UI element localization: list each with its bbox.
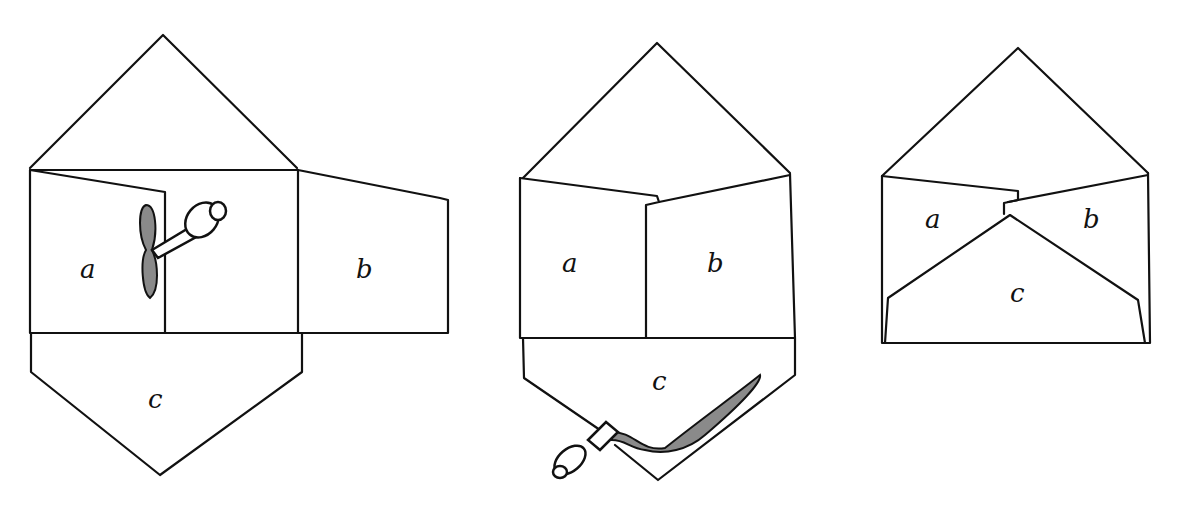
top-flap	[523, 43, 790, 178]
flap-b-folded	[1008, 175, 1148, 202]
label-b: b	[1083, 204, 1100, 234]
glue-tube-icon	[140, 196, 226, 298]
step-3-figure: a b c	[882, 48, 1150, 343]
label-a: a	[562, 248, 578, 278]
label-c: c	[652, 366, 667, 396]
label-c: c	[1010, 278, 1025, 308]
flap-c-left	[523, 338, 600, 430]
flap-a-folded	[882, 176, 1018, 214]
flap-c-right	[615, 338, 795, 480]
flap-b	[298, 170, 448, 333]
top-flap	[30, 35, 297, 168]
step-1-figure: a b c	[30, 35, 448, 475]
flap-b-folded	[659, 175, 790, 202]
label-c: c	[148, 384, 163, 414]
label-b: b	[356, 254, 373, 284]
step-2-figure: a b c	[520, 43, 795, 480]
flap-a-folded	[520, 178, 659, 338]
label-b: b	[707, 248, 724, 278]
envelope-folding-diagram: a b c a b c a b c	[0, 0, 1177, 513]
top-flap	[882, 48, 1148, 176]
label-a: a	[925, 204, 941, 234]
label-a: a	[80, 254, 96, 284]
envelope-body	[882, 173, 1150, 343]
flap-c	[31, 333, 302, 475]
